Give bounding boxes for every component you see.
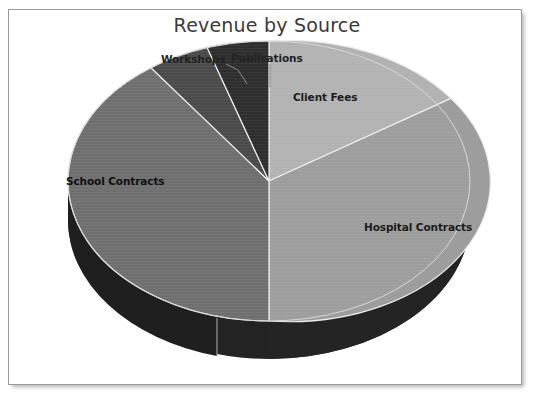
pie-label-school-contracts: School Contracts [66,175,165,187]
pie-label-hospital-contracts: Hospital Contracts [364,221,472,233]
pie-label-workshops: Workshops [161,53,225,65]
chart-title: Revenue by Source [0,14,534,36]
pie-label-publications: Publications [231,52,303,64]
pie-label-client-fees: Client Fees [293,91,357,103]
pie-chart: Revenue by Source Client Fees Hospital C… [0,0,534,397]
